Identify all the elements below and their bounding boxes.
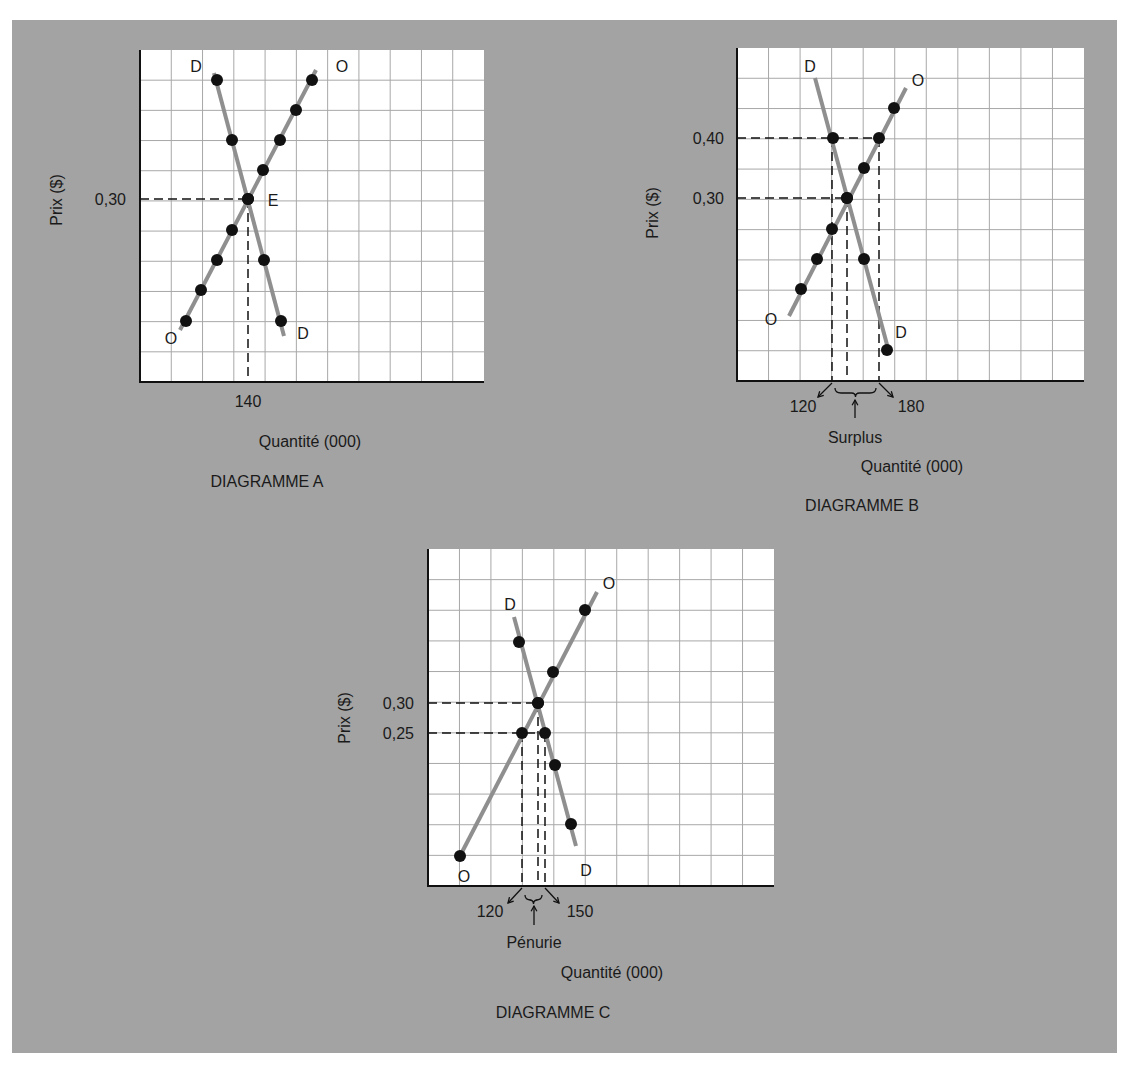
supply-point: [226, 224, 238, 236]
demand-point: [513, 636, 525, 648]
demand-point: [881, 344, 893, 356]
annotation-label: Surplus: [828, 429, 882, 446]
supply-point: [795, 283, 807, 295]
quantity-tick-label: 180: [898, 398, 925, 415]
quantity-tick-label: 120: [477, 903, 504, 920]
supply-curve-label: O: [458, 868, 470, 885]
demand-point: [226, 134, 238, 146]
demand-point: [858, 253, 870, 265]
supply-point: [532, 697, 544, 709]
grid: [428, 549, 774, 887]
grid: [737, 48, 1084, 382]
x-axis-label: Quantité (000): [861, 458, 963, 475]
supply-point: [841, 192, 853, 204]
diagram-b: DDOO Surplus Prix ($) Quantité (000) DIA…: [644, 48, 1084, 514]
arrow-right-icon: [545, 888, 559, 903]
demand-point: [211, 74, 223, 86]
supply-point: [242, 193, 254, 205]
demand-point: [539, 727, 551, 739]
y-axis-label: Prix ($): [48, 174, 65, 226]
demand-point: [827, 132, 839, 144]
grid-background: [737, 48, 1084, 381]
equilibrium-label: E: [268, 192, 279, 209]
demand-curve-label: D: [297, 325, 309, 342]
grid-background: [140, 50, 484, 382]
diagram-title: DIAGRAMME C: [496, 1004, 611, 1021]
price-tick-label: 0,40: [693, 130, 724, 147]
price-tick-label: 0,25: [383, 725, 414, 742]
demand-point: [565, 818, 577, 830]
supply-point: [211, 254, 223, 266]
price-tick-label: 0,30: [693, 190, 724, 207]
supply-point: [257, 164, 269, 176]
supply-curve-label: O: [912, 72, 924, 89]
supply-point: [888, 102, 900, 114]
supply-point: [873, 132, 885, 144]
brace-icon: [525, 895, 542, 904]
demand-point: [549, 759, 561, 771]
diagram-a: DDOOE Prix ($) Quantité (000) DIAGRAMME …: [48, 50, 484, 490]
supply-point: [826, 223, 838, 235]
supply-point: [811, 253, 823, 265]
demand-curve-label: D: [804, 58, 816, 75]
demand-curve-label: D: [580, 862, 592, 879]
demand-curve-label: D: [504, 596, 516, 613]
quantity-tick-label: 150: [567, 903, 594, 920]
x-axis-label: Quantité (000): [561, 964, 663, 981]
demand-curve-label: D: [895, 324, 907, 341]
quantity-tick-label: 140: [235, 393, 262, 410]
demand-curve-label: D: [190, 58, 202, 75]
price-tick-label: 0,30: [383, 695, 414, 712]
supply-point: [547, 666, 559, 678]
grid-background: [428, 549, 774, 886]
supply-point: [579, 604, 591, 616]
supply-point: [858, 162, 870, 174]
arrow-right-icon: [879, 383, 893, 397]
supply-curve-label: O: [603, 575, 615, 592]
supply-point: [516, 727, 528, 739]
supply-curve-label: O: [165, 330, 177, 347]
supply-point: [454, 850, 466, 862]
diagram-canvas: DDOOE Prix ($) Quantité (000) DIAGRAMME …: [0, 0, 1130, 1066]
supply-curve-label: O: [336, 58, 348, 75]
shortage-annotation: Pénurie: [506, 888, 561, 951]
demand-point: [275, 315, 287, 327]
supply-point: [180, 315, 192, 327]
demand-point: [258, 254, 270, 266]
x-axis-label: Quantité (000): [259, 433, 361, 450]
y-axis-label: Prix ($): [336, 692, 353, 744]
supply-curve-label: O: [765, 311, 777, 328]
quantity-tick-label: 120: [790, 398, 817, 415]
diagram-title: DIAGRAMME B: [805, 497, 919, 514]
arrow-left-icon: [818, 383, 832, 397]
diagram-c: DDOO Pénurie Prix ($) Quantité (000) DIA…: [336, 549, 774, 1021]
brace-icon: [835, 388, 876, 397]
supply-point: [195, 284, 207, 296]
supply-point: [274, 134, 286, 146]
supply-point: [290, 104, 302, 116]
grid: [140, 50, 484, 383]
surplus-annotation: Surplus: [818, 383, 893, 446]
supply-point: [306, 74, 318, 86]
annotation-label: Pénurie: [506, 934, 561, 951]
diagram-title: DIAGRAMME A: [211, 473, 324, 490]
y-axis-label: Prix ($): [644, 187, 661, 239]
arrow-left-icon: [508, 888, 522, 903]
price-tick-label: 0,30: [95, 191, 126, 208]
